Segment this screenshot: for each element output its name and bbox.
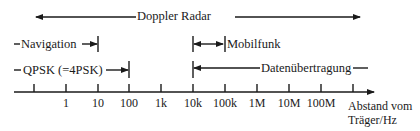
tick-label-100M: 100M [307,97,336,110]
tick-label-10: 10 [92,97,104,110]
axis-ticks [34,84,353,92]
label-navigation: Navigation [20,37,78,51]
tick-label-10k: 10k [184,97,202,110]
frequency-diagram: Doppler Radar Navigation Mobilfunk QPSK … [0,0,420,131]
tick-label-100: 100 [120,97,138,110]
label-mobilfunk: Mobilfunk [226,37,281,51]
tick-label-100k: 100k [213,97,237,110]
axis-title-line1: Abstand vom [348,99,412,113]
label-qpsk: QPSK (=4PSK) [22,63,104,77]
tick-label-1: 1 [63,97,69,110]
tick-label-1M: 1M [249,97,266,110]
tick-label-1k: 1k [155,97,167,110]
label-datenuebertragung: Datenübertragung [260,61,352,75]
label-doppler-radar: Doppler Radar [136,9,212,23]
axis-title-line2: Träger/Hz [348,113,397,127]
tick-label-10M: 10M [278,97,301,110]
